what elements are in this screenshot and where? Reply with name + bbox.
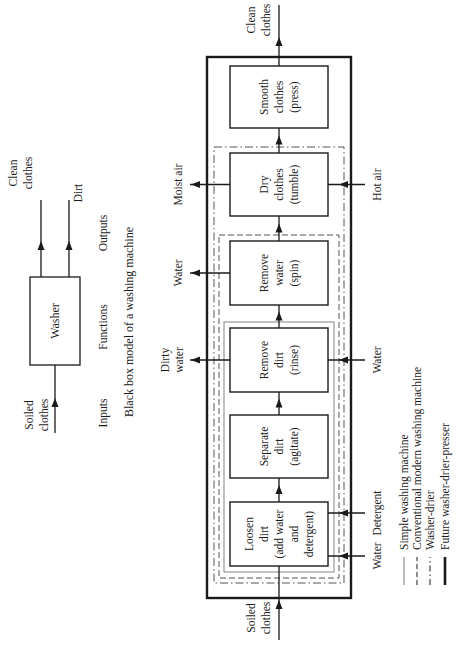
arrowhead-icon <box>66 241 73 250</box>
arrowhead-icon <box>191 181 200 188</box>
step-label-press-line: clothes <box>273 80 285 113</box>
step-label-separate-line: (agitate) <box>288 427 301 465</box>
step-label-spin-line: Remove <box>258 254 270 292</box>
legend-label: Washer-drier <box>424 490 436 550</box>
step-label-rinse-line: (rinse) <box>288 345 301 375</box>
step-label-rinse-line: Remove <box>258 341 270 379</box>
column-label-outputs-line: Outputs <box>97 214 110 251</box>
arrowhead-icon <box>52 398 59 407</box>
side-input-label-line: Water <box>371 542 383 569</box>
main-input-label: Soiledclothes <box>245 601 272 634</box>
black-box-caption-line: Black box model of a washing machine <box>122 227 136 417</box>
column-label-functions: Functions <box>97 304 109 350</box>
arrowhead-icon <box>276 485 283 494</box>
washing-machine-function-diagram: WasherSoiledclothesCleanclothesDirtInput… <box>0 0 468 646</box>
arrowhead-icon <box>339 553 348 560</box>
arrowhead-icon <box>276 224 283 233</box>
side-input-label-line: Water <box>371 346 383 373</box>
step-label-separate-line: Separate <box>258 427 271 467</box>
main-input-label-line: clothes <box>260 601 272 634</box>
output-label-clean-clothes-line: Clean <box>7 159 19 186</box>
output-label-clean-clothes: Cleanclothes <box>7 156 34 189</box>
input-label-line: Soiled <box>23 400 35 430</box>
step-label-loosen-line: and <box>288 525 300 542</box>
washer-title-line: Washer <box>48 303 62 339</box>
diagram-canvas: WasherSoiledclothesCleanclothesDirtInput… <box>0 0 468 646</box>
washer-title: Washer <box>48 303 62 339</box>
side-output-label-line: Dirty <box>159 348 172 373</box>
arrowhead-icon <box>276 136 283 145</box>
step-label-dry-line: (tumble) <box>288 165 301 205</box>
side-input-label: Detergent <box>371 490 384 536</box>
side-input-label: Water <box>371 346 383 373</box>
side-output-label: Dirtywater <box>159 347 185 373</box>
output-label-clean-clothes-line: clothes <box>22 156 34 189</box>
step-label-spin-line: water <box>273 260 285 286</box>
main-output-label-line: Clean <box>245 6 257 33</box>
step-label-press-line: Smooth <box>258 79 270 115</box>
arrowhead-icon <box>38 241 45 250</box>
arrowhead-icon <box>276 399 283 408</box>
side-output-label: Moist air <box>172 163 184 205</box>
step-label-dry-line: clothes <box>273 168 285 201</box>
side-input-label-line: Detergent <box>371 490 384 536</box>
step-label-loosen-line: Loosen <box>243 517 255 551</box>
side-input-label: Water <box>371 542 383 569</box>
step-label-loosen-line: detergent) <box>303 511 316 558</box>
output-label-dirt-line: Dirt <box>72 183 84 202</box>
arrowhead-icon <box>276 600 283 609</box>
step-label-spin-line: (spin) <box>288 259 301 286</box>
input-label: Soiledclothes <box>23 398 50 431</box>
column-label-inputs: Inputs <box>97 398 110 427</box>
main-output-label: Cleanclothes <box>245 3 272 36</box>
step-label-dry-line: Dry <box>258 175 271 193</box>
output-label-dirt: Dirt <box>72 183 84 202</box>
step-label-loosen-line: (add water <box>273 509 286 558</box>
side-output-label-line: Water <box>172 259 184 286</box>
side-input-label: Hot air <box>371 168 383 200</box>
column-label-outputs: Outputs <box>97 214 110 251</box>
arrowhead-icon <box>191 270 200 277</box>
column-label-functions-line: Functions <box>97 304 109 350</box>
legend: Simple washing machineConventional moder… <box>398 367 452 585</box>
main-output-label-line: clothes <box>260 3 272 36</box>
arrowhead-icon <box>339 181 348 188</box>
legend-label: Simple washing machine <box>398 434 411 550</box>
arrowhead-icon <box>191 357 200 364</box>
step-label-press: Smoothclothes(press) <box>258 79 301 115</box>
input-label-line: clothes <box>38 398 50 431</box>
column-label-inputs-line: Inputs <box>97 398 110 427</box>
black-box-caption: Black box model of a washing machine <box>122 227 136 417</box>
legend-label: Future washer-drier-presser <box>439 423 452 550</box>
legend-label: Conventional modern washing machine <box>411 367 424 550</box>
step-label-separate-line: dirt <box>273 438 285 455</box>
main-input-label-line: Soiled <box>245 603 257 633</box>
step-label-loosen-line: dirt <box>258 525 270 542</box>
step-label-rinse-line: dirt <box>273 351 285 368</box>
step-label-press-line: (press) <box>288 81 301 112</box>
functional-decomposition: Loosendirt(add wateranddetergent)Separat… <box>159 3 384 640</box>
side-output-label-line: water <box>173 347 185 373</box>
black-box-model: WasherSoiledclothesCleanclothesDirtInput… <box>7 156 137 433</box>
arrowhead-icon <box>276 312 283 321</box>
side-output-label-line: Moist air <box>172 163 184 205</box>
side-input-label-line: Hot air <box>371 168 383 200</box>
side-output-label: Water <box>172 259 184 286</box>
arrowhead-icon <box>276 37 283 46</box>
